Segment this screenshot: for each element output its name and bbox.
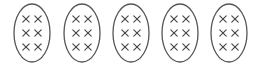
cross-mark-icon [134,44,140,50]
cross-mark-icon [122,44,128,50]
cross-mark-icon [85,44,91,50]
cross-mark-icon [183,30,189,36]
groups-diagram [0,0,261,68]
cross-mark-icon [73,30,79,36]
group-5 [211,4,247,62]
cross-mark-icon [23,16,29,22]
cross-mark-icon [122,16,128,22]
cross-mark-icon [183,16,189,22]
group-1 [14,4,50,62]
cross-mark-icon [220,30,226,36]
cross-mark-icon [23,44,29,50]
group-4 [162,4,198,62]
group-oval [64,4,100,62]
cross-mark-icon [220,44,226,50]
cross-mark-icon [171,16,177,22]
cross-mark-icon [183,44,189,50]
cross-mark-icon [85,30,91,36]
cross-mark-icon [134,16,140,22]
cross-mark-icon [73,44,79,50]
group-oval [14,4,50,62]
cross-mark-icon [35,44,41,50]
cross-mark-icon [35,30,41,36]
cross-mark-icon [122,30,128,36]
cross-mark-icon [171,30,177,36]
group-oval [162,4,198,62]
group-2 [64,4,100,62]
cross-mark-icon [134,30,140,36]
cross-mark-icon [232,16,238,22]
cross-mark-icon [23,30,29,36]
cross-mark-icon [85,16,91,22]
cross-mark-icon [35,16,41,22]
group-3 [113,4,149,62]
cross-mark-icon [171,44,177,50]
cross-mark-icon [73,16,79,22]
group-oval [211,4,247,62]
cross-mark-icon [232,30,238,36]
group-oval [113,4,149,62]
cross-mark-icon [220,16,226,22]
cross-mark-icon [232,44,238,50]
